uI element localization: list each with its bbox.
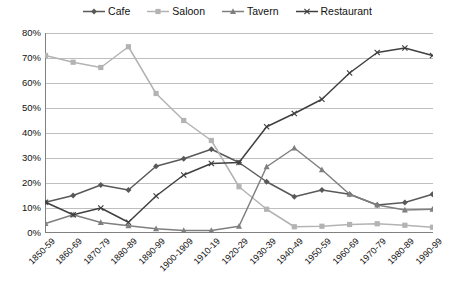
x-axis-tick-label: 1850-59 xyxy=(26,236,56,266)
square-marker xyxy=(430,225,433,230)
legend-item-restaurant[interactable]: Restaurant xyxy=(296,6,372,17)
legend-label: Saloon xyxy=(172,6,205,17)
square-marker xyxy=(319,224,324,229)
y-axis-tick-label: 80% xyxy=(1,28,41,38)
diamond-marker xyxy=(208,146,214,152)
x-axis-tick-label: 1950-59 xyxy=(303,236,333,266)
legend-item-cafe[interactable]: Cafe xyxy=(83,6,130,17)
legend-item-saloon[interactable]: Saloon xyxy=(147,6,205,17)
chart-legend: CafeSaloonTavernRestaurant xyxy=(0,6,455,17)
legend-item-tavern[interactable]: Tavern xyxy=(222,6,279,17)
x-axis-tick-label: 1970-79 xyxy=(358,236,388,266)
legend-label: Restaurant xyxy=(321,6,372,17)
y-axis-tick-label: 0% xyxy=(1,228,41,238)
cross-marker xyxy=(319,97,324,102)
series-saloon xyxy=(45,44,433,230)
square-marker xyxy=(264,207,269,212)
diamond-marker xyxy=(70,193,76,199)
gridlines xyxy=(45,34,433,234)
square-marker xyxy=(292,224,297,229)
x-axis-tick-label: 1860-69 xyxy=(54,236,84,266)
diamond-legend-icon xyxy=(83,6,105,17)
cross-legend-icon xyxy=(296,6,318,17)
x-axis-tick-label: 1980-89 xyxy=(385,236,415,266)
x-axis-tick-label: 1880-89 xyxy=(109,236,139,266)
diamond-marker xyxy=(402,200,408,206)
y-axis: 0%10%20%30%40%50%60%70%80% xyxy=(0,33,41,233)
square-marker xyxy=(153,91,158,96)
diamond-marker xyxy=(98,182,104,188)
legend-label: Cafe xyxy=(108,6,130,17)
x-axis-tick-label: 1940-49 xyxy=(275,236,305,266)
square-marker xyxy=(45,53,48,58)
diamond-marker xyxy=(430,191,434,197)
cross-marker xyxy=(153,193,158,198)
y-axis-tick-label: 60% xyxy=(1,78,41,88)
y-axis-tick-label: 20% xyxy=(1,178,41,188)
square-marker xyxy=(98,65,103,70)
diamond-marker xyxy=(319,187,325,193)
series-restaurant xyxy=(45,45,433,224)
series-canvas xyxy=(45,33,433,233)
series-cafe xyxy=(45,146,433,208)
plot-area xyxy=(45,33,433,233)
triangle-marker xyxy=(291,145,297,151)
square-marker xyxy=(402,223,407,228)
square-marker xyxy=(126,44,131,49)
y-axis-tick-label: 40% xyxy=(1,128,41,138)
y-axis-tick-label: 70% xyxy=(1,53,41,63)
y-axis-tick-label: 30% xyxy=(1,153,41,163)
cross-marker xyxy=(292,111,297,116)
x-axis-tick-label: 1960-69 xyxy=(330,236,360,266)
cross-marker xyxy=(347,70,352,75)
diamond-marker xyxy=(91,9,97,15)
square-marker xyxy=(71,60,76,65)
cross-marker xyxy=(264,124,269,129)
square-marker xyxy=(347,222,352,227)
y-axis-tick-label: 10% xyxy=(1,203,41,213)
x-axis-tick-label: 1930-39 xyxy=(247,236,277,266)
diamond-marker xyxy=(181,156,187,162)
square-marker xyxy=(156,9,161,14)
square-marker xyxy=(236,184,241,189)
square-legend-icon xyxy=(147,6,169,17)
diamond-marker xyxy=(291,194,297,200)
x-axis: 1850-591860-691870-791880-891890-991900-… xyxy=(45,236,433,298)
square-marker xyxy=(181,118,186,123)
x-axis-tick-label: 1920-29 xyxy=(220,236,250,266)
line-chart: CafeSaloonTavernRestaurant 0%10%20%30%40… xyxy=(0,0,455,300)
x-axis-tick-label: 1910-19 xyxy=(192,236,222,266)
y-axis-tick-label: 50% xyxy=(1,103,41,113)
legend-label: Tavern xyxy=(247,6,279,17)
square-marker xyxy=(375,221,380,226)
triangle-legend-icon xyxy=(222,6,244,17)
x-axis-tick-label: 1990-99 xyxy=(413,236,443,266)
x-axis-tick-label: 1870-79 xyxy=(81,236,111,266)
square-marker xyxy=(209,138,214,143)
